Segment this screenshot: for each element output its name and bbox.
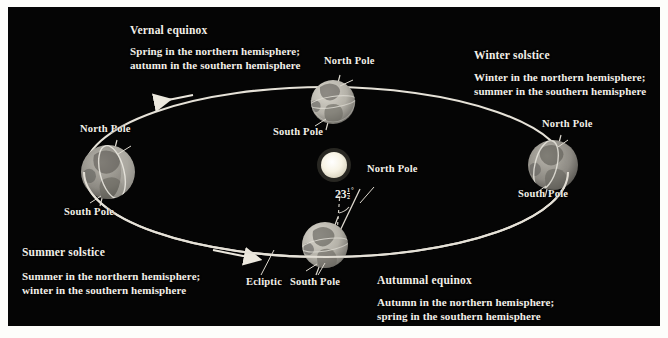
orbit-arrow-upper-left (158, 95, 193, 102)
diagram-panel: Vernal equinox Spring in the northern he… (8, 7, 660, 326)
vernal-equinox-line1: Spring in the northern hemisphere; (130, 44, 300, 58)
axial-tilt-label: 23 1 2 ° (335, 187, 354, 202)
winter-solstice-south-pole-label: South Pole (518, 187, 568, 200)
sun (317, 148, 351, 182)
summer-solstice-line1: Summer in the northern hemisphere; (22, 269, 200, 283)
winter-solstice-line1: Winter in the northern hemisphere; (474, 70, 645, 84)
autumnal-equinox-line1: Autumn in the northern hemisphere; (377, 295, 554, 309)
axial-tilt-whole: 23 (335, 187, 347, 202)
axial-tilt-fraction: 1 2 (347, 187, 350, 201)
ecliptic-label: Ecliptic (246, 275, 282, 288)
vernal-equinox-south-pole-label: South Pole (273, 125, 323, 138)
summer-solstice-north-pole-label: North Pole (80, 122, 131, 135)
summer-solstice-title: Summer solstice (22, 245, 105, 260)
leader-line-sun-north-pole (360, 187, 374, 203)
winter-solstice-line2: summer in the southern hemisphere (474, 84, 646, 98)
autumnal-equinox-title: Autumnal equinox (377, 273, 472, 288)
vernal-equinox-title: Vernal equinox (130, 23, 207, 38)
axial-tilt-denominator: 2 (347, 193, 350, 201)
earth-vernal-equinox (309, 75, 356, 130)
autumnal-equinox-south-pole-label: South Pole (290, 275, 340, 288)
winter-solstice-north-pole-label: North Pole (542, 117, 593, 130)
summer-solstice-line2: winter in the southern hemisphere (22, 283, 186, 297)
summer-solstice-south-pole-label: South Pole (64, 205, 114, 218)
autumnal-equinox-north-pole-label: North Pole (367, 162, 418, 175)
autumnal-equinox-line2: spring in the southern hemisphere (377, 309, 541, 323)
vernal-equinox-line2: autumn in the southern hemisphere (130, 58, 301, 72)
seasons-orbit-figure: Vernal equinox Spring in the northern he… (0, 0, 668, 338)
earth-summer-solstice (81, 140, 135, 206)
degree-symbol: ° (351, 186, 354, 195)
vernal-equinox-north-pole-label: North Pole (324, 54, 375, 67)
winter-solstice-title: Winter solstice (474, 48, 550, 63)
